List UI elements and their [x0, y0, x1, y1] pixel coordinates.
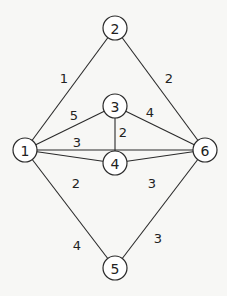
- edge-weight-label: 3: [148, 176, 156, 191]
- node-6: 6: [193, 138, 217, 162]
- edge-weight-label: 2: [72, 176, 80, 191]
- graph-diagram: 1254322343 123456: [0, 0, 227, 296]
- node-4: 4: [103, 151, 127, 175]
- edge-weight-label: 5: [70, 108, 78, 123]
- node-label: 1: [21, 143, 30, 159]
- edge-6-5: [115, 150, 205, 268]
- edge-1-4: [25, 150, 115, 163]
- edge-weight-label: 3: [154, 231, 162, 246]
- edge-3-6: [115, 106, 205, 150]
- edge-1-2: [25, 28, 115, 150]
- edge-weight-label: 1: [60, 71, 68, 86]
- node-label: 3: [111, 99, 120, 115]
- edge-weight-label: 3: [73, 135, 81, 150]
- edges-layer: [25, 28, 205, 268]
- node-label: 5: [111, 261, 120, 277]
- node-label: 2: [111, 21, 120, 37]
- node-1: 1: [13, 138, 37, 162]
- edge-weight-label: 4: [146, 105, 154, 120]
- node-3: 3: [103, 94, 127, 118]
- edge-weight-label: 2: [119, 125, 127, 140]
- node-2: 2: [103, 16, 127, 40]
- edge-weight-label: 4: [73, 238, 81, 253]
- node-label: 6: [201, 143, 210, 159]
- node-5: 5: [103, 256, 127, 280]
- node-label: 4: [111, 156, 120, 172]
- edge-2-6: [115, 28, 205, 150]
- edge-1-5: [25, 150, 115, 268]
- edge-4-6: [115, 150, 205, 163]
- edge-weight-label: 2: [165, 71, 173, 86]
